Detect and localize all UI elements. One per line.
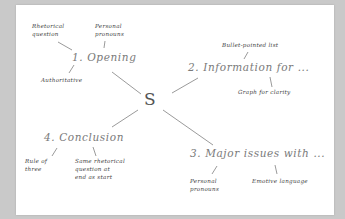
link-opening-rhetorical <box>58 42 72 50</box>
leaf-personal-pronouns: Personal pronouns <box>95 22 124 38</box>
link-conclusion-rule <box>52 148 57 156</box>
leaf-rule-of-three: Rule of three <box>25 157 47 173</box>
leaf-same-rhetorical-question: Same rhetorical question at end as start <box>75 157 125 181</box>
branch-major-issues: 3. Major issues with ... <box>190 147 325 159</box>
link-center-major-issues <box>163 110 213 145</box>
link-major-pronouns <box>212 166 217 174</box>
leaf-graph-for-clarity: Graph for clarity <box>238 88 291 96</box>
link-conclusion-same <box>93 147 96 156</box>
link-information-graph <box>270 77 272 87</box>
link-opening-authoritative <box>69 65 74 73</box>
link-center-information <box>172 78 198 93</box>
center-node: S <box>144 89 156 109</box>
leaf-bullet-pointed-list: Bullet-pointed list <box>222 41 278 49</box>
branch-information: 2. Information for ... <box>188 61 310 73</box>
link-center-conclusion <box>112 110 138 127</box>
leaf-rhetorical-question: Rhetorical question <box>32 22 64 38</box>
link-major-emotive <box>275 165 277 174</box>
leaf-personal-pronouns-2: Personal pronouns <box>190 177 219 193</box>
branch-opening: 1. Opening <box>72 51 137 63</box>
leaf-authoritative: Authoritative <box>41 76 82 84</box>
branch-conclusion: 4. Conclusion <box>44 131 124 143</box>
link-opening-pronouns <box>104 41 105 48</box>
leaf-emotive-language: Emotive language <box>252 177 308 185</box>
link-information-bullets <box>244 52 248 59</box>
link-center-opening <box>112 72 141 94</box>
